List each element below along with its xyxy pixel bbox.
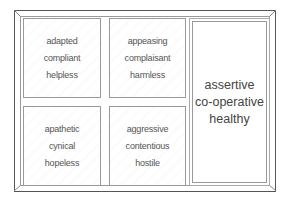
cell-adapted-compliant-helpless: adapted compliant helpless — [23, 18, 101, 98]
cell-line: harmless — [130, 67, 165, 84]
cell-line: co-operative — [195, 94, 264, 111]
cell-line: healthy — [209, 111, 249, 128]
cell-appeasing-complaisant-harmless: appeasing complaisant harmless — [109, 18, 186, 98]
cell-line: apathetic — [45, 121, 80, 138]
cell-assertive-cooperative-healthy: assertive co-operative healthy — [192, 21, 267, 183]
cell-line: contentious — [126, 138, 170, 155]
cell-line: cynical — [49, 138, 75, 155]
cell-line: assertive — [204, 77, 254, 94]
cell-line: hopeless — [45, 155, 79, 172]
cell-apathetic-cynical-hopeless: apathetic cynical hopeless — [23, 106, 101, 186]
cell-line: adapted — [46, 33, 77, 50]
cell-line: hostile — [135, 155, 160, 172]
cell-line: complaisant — [125, 50, 171, 67]
cell-line: aggressive — [127, 121, 169, 138]
cell-line: appeasing — [128, 33, 168, 50]
cell-line: helpless — [46, 67, 77, 84]
cell-aggressive-contentious-hostile: aggressive contentious hostile — [109, 106, 186, 186]
cell-line: compliant — [44, 50, 81, 67]
